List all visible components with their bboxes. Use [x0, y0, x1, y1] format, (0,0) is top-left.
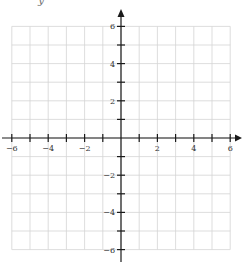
y-axis-arrow-icon [118, 9, 125, 17]
y-axis-label: y [37, 0, 45, 7]
y-tick-label: −4 [103, 208, 115, 217]
y-tick-label: 6 [110, 22, 115, 31]
x-axis-arrow-icon [235, 135, 242, 142]
coordinate-plane: −6−4−2246642−2−4−6 y [0, 0, 242, 264]
x-tick-label: −6 [6, 144, 18, 153]
x-tick-label: 4 [191, 144, 196, 153]
x-tick-label: −4 [42, 144, 54, 153]
x-tick-label: 6 [228, 144, 233, 153]
x-tick-label: −2 [79, 144, 91, 153]
y-tick-label: 2 [110, 97, 115, 106]
y-tick-label: 4 [110, 60, 115, 69]
x-tick-label: 2 [155, 144, 160, 153]
y-tick-label: −2 [103, 171, 115, 180]
axes [2, 9, 242, 262]
y-tick-label: −6 [103, 246, 115, 255]
